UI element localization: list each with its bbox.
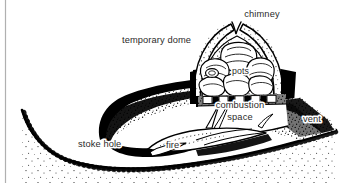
flue-hole — [267, 95, 276, 102]
kiln-diagram-figure: chimney chimney temporary dome temporary… — [0, 0, 341, 183]
label-fire: fire — [166, 140, 179, 150]
pot-lower-center — [223, 74, 250, 97]
flue-hole — [203, 97, 212, 104]
label-pots: pots — [232, 66, 250, 76]
kiln-cross-section-illustration: chimney chimney temporary dome temporary… — [0, 0, 341, 183]
label-temporary-dome: temporary dome — [122, 35, 191, 45]
pot-lower-right — [249, 76, 273, 96]
pot-lower-left — [199, 77, 225, 97]
label-chimney: chimney — [244, 9, 280, 19]
label-vent: vent — [303, 114, 321, 124]
label-space: space — [227, 112, 252, 122]
label-stoke-hole: stoke hole — [78, 139, 121, 149]
label-combustion: combustion — [216, 100, 265, 110]
